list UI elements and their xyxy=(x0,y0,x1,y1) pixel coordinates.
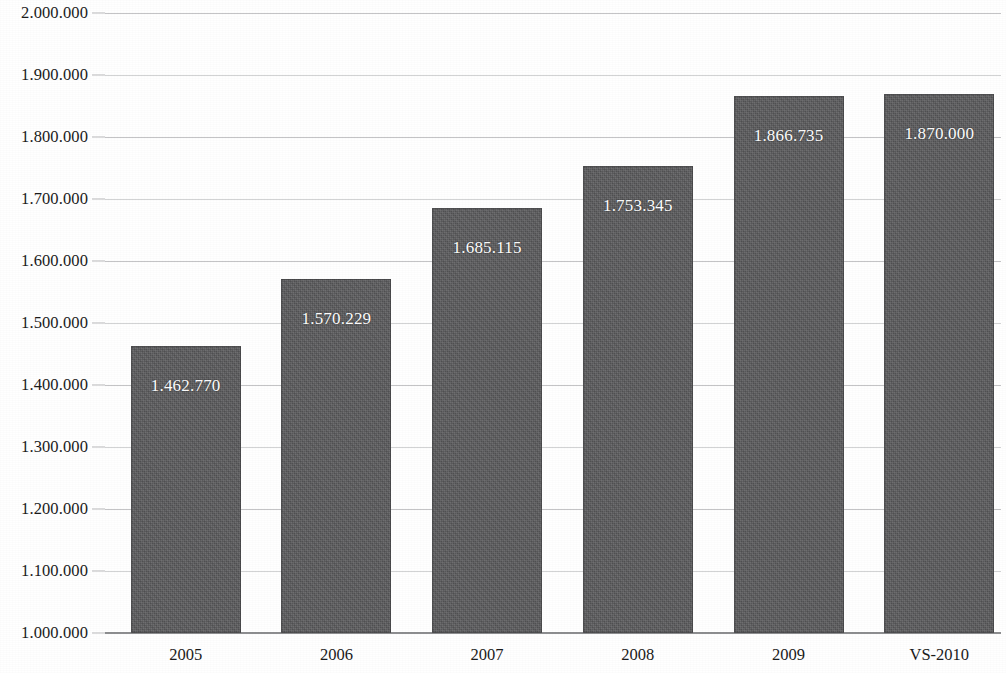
gridline xyxy=(105,199,1001,200)
x-axis-tick-label: 2007 xyxy=(412,645,561,665)
gridline xyxy=(105,261,1001,262)
y-axis-tick-label: 1.300.000 xyxy=(21,437,88,457)
gridline xyxy=(105,75,1001,76)
y-axis: 2.000.0001.900.0001.800.0001.700.0001.60… xyxy=(0,0,105,673)
y-axis-tick-label: 1.700.000 xyxy=(21,189,88,209)
y-axis-tick-mark xyxy=(92,509,105,510)
y-axis-tick-mark xyxy=(92,571,105,572)
y-axis-tick-mark xyxy=(92,199,105,200)
y-axis-tick-label: 1.800.000 xyxy=(21,127,88,147)
bar[interactable] xyxy=(281,279,391,633)
gridline xyxy=(105,137,1001,138)
bar-value-label: 1.866.735 xyxy=(734,126,844,146)
bar[interactable] xyxy=(583,166,693,633)
gridline xyxy=(105,13,1001,14)
bar-value-label: 1.685.115 xyxy=(432,238,542,258)
bar-group[interactable]: 1.870.000 xyxy=(884,94,994,633)
x-axis-tick-label: 2009 xyxy=(714,645,863,665)
y-axis-tick-label: 1.400.000 xyxy=(21,375,88,395)
y-axis-tick-mark xyxy=(92,633,105,634)
y-axis-tick-mark xyxy=(92,75,105,76)
x-axis-tick-label: VS-2010 xyxy=(865,645,1006,665)
bar-group[interactable]: 1.753.345 xyxy=(583,166,693,633)
y-axis-tick-mark xyxy=(92,261,105,262)
y-axis-tick-mark xyxy=(92,13,105,14)
bar[interactable] xyxy=(432,208,542,633)
y-axis-tick-label: 2.000.000 xyxy=(21,3,88,23)
y-axis-tick-mark xyxy=(92,385,105,386)
bar-group[interactable]: 1.685.115 xyxy=(432,208,542,633)
bar-value-label: 1.462.770 xyxy=(131,376,241,396)
bar-chart: 2.000.0001.900.0001.800.0001.700.0001.60… xyxy=(0,0,1006,673)
gridline xyxy=(105,323,1001,324)
x-axis: 20052006200720082009VS-2010 xyxy=(105,645,1001,673)
bar-group[interactable]: 1.866.735 xyxy=(734,96,844,633)
y-axis-tick-mark xyxy=(92,447,105,448)
bar-value-label: 1.753.345 xyxy=(583,196,693,216)
bar-group[interactable]: 1.570.229 xyxy=(281,279,391,633)
y-axis-tick-label: 1.000.000 xyxy=(21,623,88,643)
bar-group[interactable]: 1.462.770 xyxy=(131,346,241,633)
y-axis-tick-label: 1.900.000 xyxy=(21,65,88,85)
y-axis-tick-mark xyxy=(92,137,105,138)
bar-value-label: 1.570.229 xyxy=(281,309,391,329)
bar[interactable] xyxy=(734,96,844,633)
x-axis-tick-label: 2006 xyxy=(262,645,411,665)
y-axis-tick-label: 1.200.000 xyxy=(21,499,88,519)
plot-area: 1.462.7701.570.2291.685.1151.753.3451.86… xyxy=(105,13,1001,633)
x-axis-tick-label: 2005 xyxy=(111,645,260,665)
y-axis-tick-label: 1.600.000 xyxy=(21,251,88,271)
bar[interactable] xyxy=(884,94,994,633)
y-axis-tick-label: 1.100.000 xyxy=(21,561,88,581)
y-axis-tick-mark xyxy=(92,323,105,324)
y-axis-tick-label: 1.500.000 xyxy=(21,313,88,333)
x-axis-tick-label: 2008 xyxy=(563,645,712,665)
bar-value-label: 1.870.000 xyxy=(884,124,994,144)
